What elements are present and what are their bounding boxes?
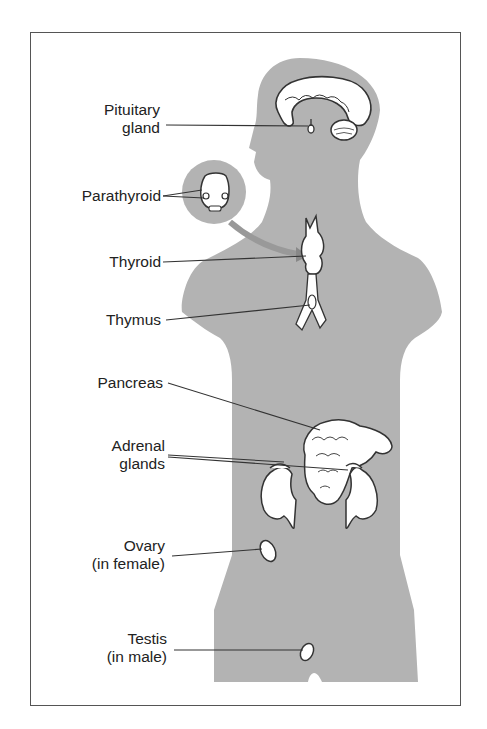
label-line: Thyroid (60, 253, 161, 271)
label-adrenal-glands: Adrenal glands (60, 437, 165, 473)
label-line: Pituitary (60, 101, 160, 119)
label-line: (in female) (50, 555, 165, 573)
label-line: Thymus (60, 311, 161, 329)
label-testis: Testis (in male) (50, 630, 167, 666)
label-line: Parathyroid (40, 187, 161, 205)
label-pancreas: Pancreas (60, 374, 163, 392)
label-line: glands (60, 455, 165, 473)
body-silhouette (182, 58, 442, 682)
label-thyroid: Thyroid (60, 253, 161, 271)
label-line: Adrenal (60, 437, 165, 455)
label-line: Pancreas (60, 374, 163, 392)
pituitary-icon (308, 125, 314, 133)
label-thymus: Thymus (60, 311, 161, 329)
label-parathyroid: Parathyroid (40, 187, 161, 205)
label-pituitary-gland: Pituitary gland (60, 101, 160, 137)
label-line: Testis (50, 630, 167, 648)
label-line: gland (60, 119, 160, 137)
label-ovary: Ovary (in female) (50, 537, 165, 573)
label-line: Ovary (50, 537, 165, 555)
parathyroid-icon (201, 173, 229, 209)
thymus-icon (308, 295, 316, 309)
label-line: (in male) (50, 648, 167, 666)
